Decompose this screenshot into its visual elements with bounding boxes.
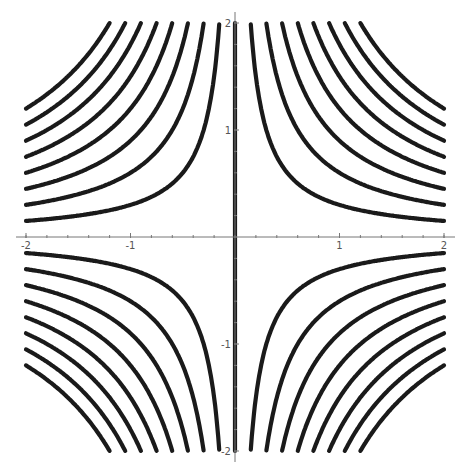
- y-tick-label: -2: [221, 446, 231, 457]
- contour-curve: [251, 253, 444, 450]
- axes: [16, 12, 455, 462]
- contour-curve: [298, 23, 444, 173]
- plot-canvas: -2-112-2-112: [0, 0, 469, 466]
- contour-curve: [298, 301, 444, 451]
- contour-curve: [26, 301, 172, 451]
- contour-curve: [26, 253, 219, 450]
- contour-plot: -2-112-2-112: [0, 0, 469, 466]
- x-tick-label: -2: [21, 240, 31, 251]
- contour-curve: [251, 24, 444, 221]
- x-tick-label: -1: [126, 240, 136, 251]
- y-tick-label: 1: [225, 125, 231, 136]
- x-tick-label: 2: [441, 240, 447, 251]
- y-tick-label: -1: [221, 339, 231, 350]
- contour-curve: [26, 24, 219, 221]
- y-tick-label: 2: [225, 18, 231, 29]
- x-tick-label: 1: [336, 240, 342, 251]
- contour-curve: [26, 23, 172, 173]
